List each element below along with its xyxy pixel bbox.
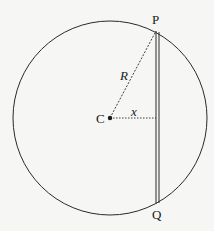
label-c: C xyxy=(96,111,105,126)
circle-chord-diagram: P Q C R x xyxy=(0,0,214,231)
label-x: x xyxy=(130,104,137,119)
label-p: P xyxy=(152,12,159,27)
label-r: R xyxy=(119,68,128,83)
label-q: Q xyxy=(152,207,162,222)
center-point xyxy=(108,116,112,120)
